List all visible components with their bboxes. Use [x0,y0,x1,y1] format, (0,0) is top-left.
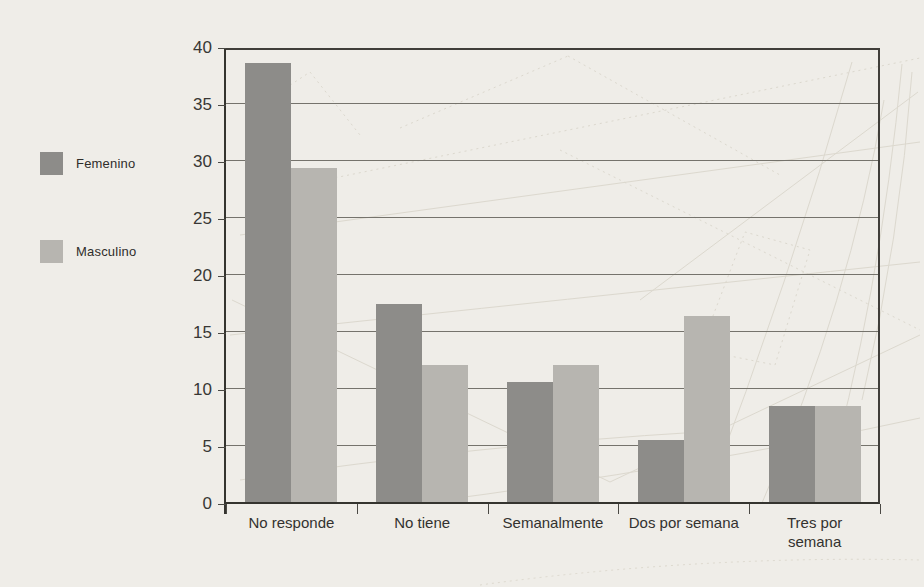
femenino-swatch [40,152,63,175]
y-axis-line [224,48,226,514]
bar-masculino-1 [291,168,337,502]
y-axis-tick-label: 15 [152,323,212,343]
x-axis-tick [880,504,881,514]
y-axis-tick [218,219,226,220]
x-axis-category-label: Semanalmente [497,514,609,533]
x-axis-tick [357,504,358,514]
y-axis-tick [218,504,226,505]
x-axis-tick [226,504,227,514]
bar-femenino-5 [769,406,815,502]
grid-line [226,160,878,161]
x-axis-category-label: Dos por semana [628,514,740,533]
bar-masculino-4 [684,316,730,502]
y-axis-tick-label: 0 [152,494,212,514]
y-axis-tick-label: 30 [152,152,212,172]
bar-femenino-4 [638,440,684,502]
y-axis-tick [218,333,226,334]
bar-femenino-3 [507,382,553,502]
y-axis-tick [218,105,226,106]
y-axis-tick [218,390,226,391]
y-axis-tick-label: 25 [152,209,212,229]
x-axis-category-label: Tres por semana [759,514,871,552]
y-axis-tick [218,276,226,277]
y-axis-tick-label: 20 [152,266,212,286]
legend-label-masculino: Masculino [76,244,136,259]
grid-line [226,103,878,104]
y-axis-tick-label: 40 [152,38,212,58]
y-axis-tick [218,162,226,163]
bar-masculino-3 [553,365,599,502]
legend-item-femenino: Femenino [40,152,135,175]
y-axis-tick-label: 5 [152,437,212,457]
masculino-swatch [40,240,63,263]
y-axis-tick-label: 35 [152,95,212,115]
bar-masculino-2 [422,365,468,502]
bar-masculino-5 [815,406,861,502]
bar-femenino-1 [245,63,291,502]
page: Femenino Masculino 0510152025303540No re… [0,0,924,587]
y-axis-tick [218,447,226,448]
x-axis-tick [618,504,619,514]
x-axis-tick [749,504,750,514]
x-axis-category-label: No responde [235,514,347,533]
plot-area [226,48,880,504]
y-axis-tick-label: 10 [152,380,212,400]
legend-label-femenino: Femenino [76,156,135,171]
bar-femenino-2 [376,304,422,502]
legend-item-masculino: Masculino [40,240,136,263]
y-axis-tick [218,48,226,49]
x-axis-tick [488,504,489,514]
x-axis-category-label: No tiene [366,514,478,533]
